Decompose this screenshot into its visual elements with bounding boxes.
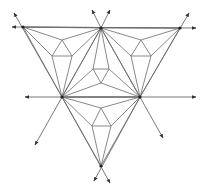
edge-CS2-CB bbox=[101, 69, 109, 83]
edge-BA-BS2 bbox=[101, 108, 111, 126]
rays-group bbox=[12, 10, 196, 183]
arrow-ray-bottom-right-down bbox=[62, 97, 110, 183]
vertex-MR bbox=[138, 95, 141, 98]
edge-CS1-ML bbox=[62, 69, 93, 97]
edge-RS2-MR bbox=[140, 56, 151, 97]
edge-LS2-ML bbox=[62, 56, 72, 97]
arrow-ray-top-center-up-left bbox=[92, 10, 101, 28]
edge-CB-MR bbox=[101, 83, 140, 97]
edge-LA-LS2 bbox=[62, 40, 72, 56]
arrow-ray-bottom-left-down bbox=[94, 97, 140, 181]
edge-BS1-B bbox=[92, 126, 101, 166]
edge-CS2-MR bbox=[109, 69, 140, 97]
vertex-B bbox=[99, 164, 102, 167]
arrow-ray-left-up-ray bbox=[14, 13, 62, 97]
diagram-canvas bbox=[0, 0, 207, 194]
vertex-TR bbox=[178, 26, 181, 29]
arrow-ray-right-up-ray bbox=[140, 13, 189, 97]
edge-LA-LS1 bbox=[52, 40, 62, 56]
vertex-ML bbox=[60, 95, 63, 98]
arrow-ray-top-line-right bbox=[23, 27, 196, 28]
arrow-ray-right-down-ray bbox=[101, 28, 163, 138]
vertices-group bbox=[21, 25, 181, 167]
edge-TL-LS1 bbox=[23, 27, 52, 56]
vertex-TL bbox=[21, 25, 24, 28]
edge-RS1-MR bbox=[131, 56, 140, 97]
arrow-ray-top-center-up-right bbox=[101, 10, 110, 28]
edge-RA-RS1 bbox=[131, 40, 141, 56]
triangle-arrangement-diagram bbox=[0, 0, 207, 194]
edge-BA-BS1 bbox=[92, 108, 101, 126]
vertex-TC bbox=[99, 26, 102, 29]
edge-LS1-ML bbox=[52, 56, 62, 97]
edges-group bbox=[23, 27, 180, 166]
edge-CB-ML bbox=[62, 83, 101, 97]
edge-RA-RS2 bbox=[141, 40, 151, 56]
edge-CS1-CB bbox=[93, 69, 101, 83]
